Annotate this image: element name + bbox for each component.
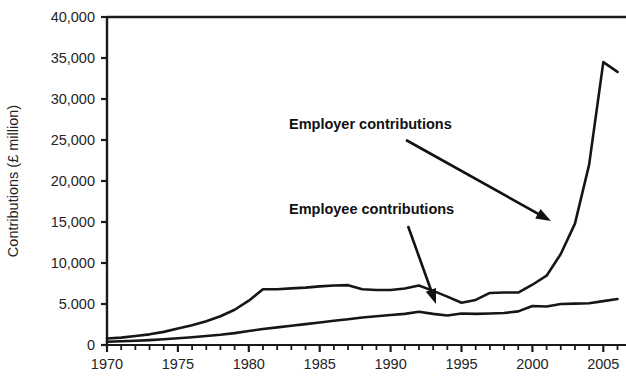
chart-container: Contributions (£ million) 05.00010,00015… <box>0 0 626 378</box>
y-axis-title-text: Contributions (£ million) <box>5 105 21 257</box>
x-tick-label: 2000 <box>516 356 548 372</box>
x-tick-label: 1995 <box>445 356 477 372</box>
y-axis-title: Contributions (£ million) <box>5 105 21 257</box>
x-tick-label: 1970 <box>91 356 123 372</box>
y-tick-label: 30,000 <box>51 91 95 107</box>
x-tick-label: 1990 <box>374 356 406 372</box>
annotation-label: Employee contributions <box>289 201 454 217</box>
x-tick-label: 1980 <box>233 356 265 372</box>
x-tick-label: 1975 <box>162 356 194 372</box>
y-tick-label: 0 <box>87 337 95 353</box>
x-tick-label: 2005 <box>587 356 619 372</box>
x-tick-label: 1985 <box>304 356 336 372</box>
annotation-label: Employer contributions <box>289 116 452 132</box>
y-tick-label: 5.000 <box>59 296 95 312</box>
y-tick-label: 20,000 <box>51 173 95 189</box>
line-chart: Contributions (£ million) 05.00010,00015… <box>0 0 626 378</box>
y-tick-label: 25,000 <box>51 132 95 148</box>
y-tick-label: 40,000 <box>51 9 95 25</box>
y-tick-label: 15,000 <box>51 214 95 230</box>
y-tick-label: 10,000 <box>51 255 95 271</box>
y-tick-label: 35,000 <box>51 50 95 66</box>
